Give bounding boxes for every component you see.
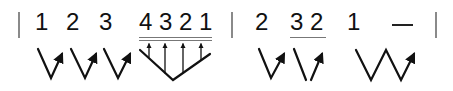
slash-check-arrow-icon bbox=[294, 49, 322, 80]
check-arrow-icon bbox=[259, 49, 284, 78]
fan-arrows-icon bbox=[140, 44, 210, 80]
w-arrow-icon bbox=[356, 50, 414, 80]
check-arrow-icon bbox=[38, 49, 62, 78]
gesture-arrows bbox=[0, 0, 453, 91]
check-arrow-icon bbox=[71, 49, 96, 78]
check-arrow-icon bbox=[104, 49, 130, 78]
